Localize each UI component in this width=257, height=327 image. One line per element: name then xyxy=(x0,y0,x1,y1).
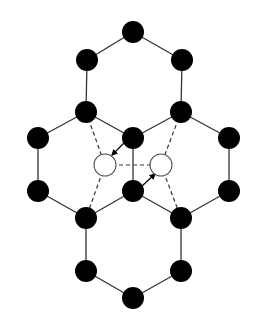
atom-circle xyxy=(122,21,144,43)
lattice-diagram xyxy=(0,0,257,327)
atom-circle xyxy=(171,49,193,71)
atom-circle xyxy=(170,260,192,282)
atom-circle xyxy=(218,180,240,202)
vacancy-circle xyxy=(150,154,172,176)
migration-arrow-icon xyxy=(112,143,124,155)
vacancy-circle xyxy=(94,154,116,176)
atom-circle xyxy=(75,101,97,123)
atom-circle xyxy=(170,207,192,229)
atom-circle xyxy=(122,180,144,202)
atom-circle xyxy=(75,260,97,282)
atom-circle xyxy=(75,207,97,229)
atom-circle xyxy=(76,49,98,71)
atom-circle xyxy=(218,127,240,149)
atom-circle xyxy=(122,127,144,149)
atom-circle xyxy=(27,127,49,149)
atom-circle xyxy=(122,287,144,309)
atom-circle xyxy=(170,101,192,123)
migration-arrow-icon xyxy=(142,174,155,186)
atom-circle xyxy=(27,180,49,202)
